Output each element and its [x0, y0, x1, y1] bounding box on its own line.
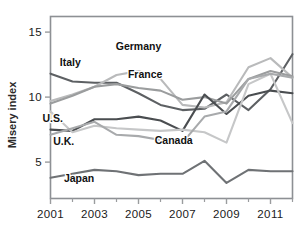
series-label-us: U.S.	[42, 112, 63, 124]
misery-index-chart: ItalyGermanyFranceU.S.U.K.CanadaJapan 51…	[0, 0, 305, 231]
series-label-germany: Germany	[116, 40, 162, 52]
x-tick-label: 2009	[213, 208, 240, 220]
x-tick-label: 2001	[37, 208, 64, 220]
y-tick-label: 5	[35, 156, 42, 168]
series-label-italy: Italy	[60, 56, 81, 68]
x-tick-label: 2003	[81, 208, 108, 220]
y-tick-label: 10	[28, 91, 42, 103]
series-label-canada: Canada	[155, 134, 193, 146]
y-tick-label: 15	[28, 26, 42, 38]
chart-canvas: ItalyGermanyFranceU.S.U.K.CanadaJapan 51…	[0, 0, 305, 231]
series-label-france: France	[128, 68, 163, 80]
x-tick-label: 2005	[125, 208, 152, 220]
y-axis-title: Misery index	[6, 81, 18, 149]
series-label-uk: U.K.	[53, 135, 74, 147]
x-tick-label: 2007	[169, 208, 196, 220]
x-tick-label: 2011	[257, 208, 283, 220]
series-label-japan: Japan	[64, 172, 94, 184]
